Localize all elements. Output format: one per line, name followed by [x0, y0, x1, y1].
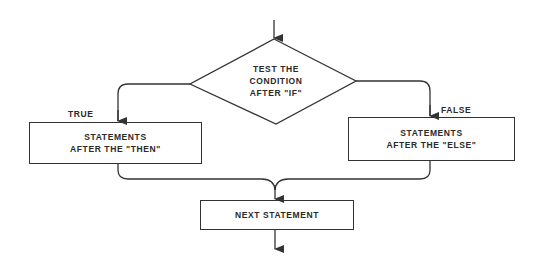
- decision-line-2: CONDITION: [224, 75, 328, 87]
- false-branch-connector: [356, 81, 430, 116]
- merge-left-connector: [118, 164, 275, 190]
- then-statements-box: STATEMENTS AFTER THE "THEN": [29, 122, 202, 164]
- false-label: FALSE: [441, 104, 471, 116]
- then-box-line-2: AFTER THE "THEN": [70, 143, 161, 155]
- true-branch-connector: [118, 84, 190, 121]
- else-box-line-2: AFTER THE "ELSE": [387, 139, 477, 151]
- next-statement-label: NEXT STATEMENT: [235, 209, 319, 221]
- else-box-line-1: STATEMENTS: [400, 127, 462, 139]
- else-statements-box: STATEMENTS AFTER THE "ELSE": [348, 117, 515, 161]
- merge-right-connector: [275, 161, 430, 190]
- decision-line-3: AFTER "IF": [224, 87, 328, 99]
- decision-line-1: TEST THE: [224, 63, 328, 75]
- decision-text: TEST THE CONDITION AFTER "IF": [224, 63, 328, 99]
- true-label: TRUE: [68, 108, 94, 120]
- next-statement-box: NEXT STATEMENT: [200, 200, 354, 230]
- then-box-line-1: STATEMENTS: [84, 131, 146, 143]
